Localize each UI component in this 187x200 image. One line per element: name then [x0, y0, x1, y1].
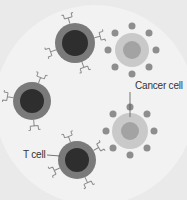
- t-cell-label: T cell: [23, 149, 46, 160]
- cell-diagram: [0, 0, 187, 200]
- cancer-cell-label: Cancer cell: [135, 80, 183, 91]
- diagram-stage: Cancer cell T cell: [0, 0, 187, 200]
